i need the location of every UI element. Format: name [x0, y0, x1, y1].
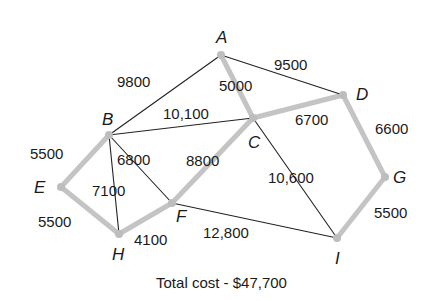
edge-weight-D-G: 6600 — [375, 120, 408, 137]
edge-weight-A-C: 5000 — [219, 77, 252, 94]
edge-H-F — [119, 203, 172, 234]
total-cost-caption: Total cost - $47,700 — [0, 274, 443, 291]
node-label-H: H — [112, 245, 125, 264]
graph-diagram: 98009500500010,10067006600880010,6005500… — [0, 0, 443, 301]
node-H — [115, 230, 123, 238]
edge-A-B — [109, 55, 221, 135]
edge-weight-A-D: 9500 — [274, 56, 307, 73]
node-G — [381, 173, 389, 181]
edge-weight-F-I: 12,800 — [203, 224, 249, 241]
node-A — [217, 51, 225, 59]
node-I — [333, 234, 341, 242]
node-label-A: A — [215, 28, 227, 47]
node-label-I: I — [335, 249, 340, 268]
edge-weight-B-F: 6800 — [117, 151, 150, 168]
node-label-F: F — [176, 207, 188, 226]
edge-weight-A-B: 9800 — [117, 73, 150, 90]
edge-B-E — [61, 135, 109, 187]
node-C — [249, 114, 257, 122]
node-F — [168, 199, 176, 207]
edge-weight-C-F: 8800 — [186, 152, 219, 169]
edge-weight-labels: 98009500500010,10067006600880010,6005500… — [30, 28, 408, 268]
node-B — [105, 131, 113, 139]
edge-weight-G-I: 5500 — [374, 204, 407, 221]
node-label-E: E — [34, 178, 46, 197]
edge-F-I — [172, 203, 337, 238]
node-E — [57, 183, 65, 191]
edge-weight-C-I: 10,600 — [268, 169, 314, 186]
node-label-B: B — [102, 110, 113, 129]
edge-weight-E-H: 5500 — [38, 213, 71, 230]
edge-weight-C-D: 6700 — [295, 111, 328, 128]
node-label-C: C — [248, 133, 261, 152]
edge-weight-B-C: 10,100 — [163, 105, 209, 122]
edge-weight-B-H: 7100 — [92, 182, 125, 199]
node-label-D: D — [356, 85, 368, 104]
edge-weight-H-F: 4100 — [134, 231, 167, 248]
edge-weight-B-E: 5500 — [30, 145, 63, 162]
node-D — [339, 91, 347, 99]
node-label-G: G — [393, 168, 406, 187]
